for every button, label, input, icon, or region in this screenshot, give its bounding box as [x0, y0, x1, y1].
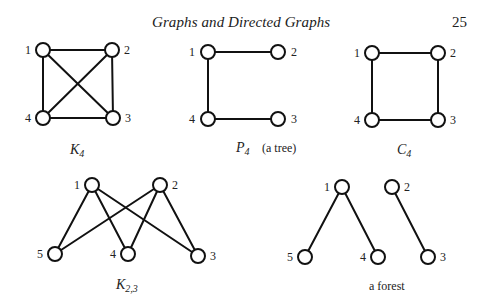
vertex-4: [201, 112, 215, 126]
caption-p4-note: (a tree): [262, 141, 296, 155]
caption-c4: C4: [397, 142, 411, 159]
caption-k23: K2,3: [115, 277, 138, 294]
vertex-label-5: 5: [37, 247, 43, 261]
vertex-1: [36, 43, 50, 57]
vertex-label-3: 3: [440, 250, 446, 264]
vertex-label-4: 4: [25, 111, 31, 125]
graph-k23: 1 2 3 4 5 K2,3: [37, 178, 216, 294]
edge-2-3: [392, 187, 428, 257]
vertex-label-1: 1: [354, 46, 360, 60]
vertex-4: [121, 247, 135, 261]
book-page: Graphs and Directed Graphs 25 1 2 3 4 K4: [0, 0, 488, 308]
edge-1-4: [342, 187, 378, 257]
caption-forest: a forest: [369, 279, 405, 293]
vertex-1: [85, 178, 99, 192]
vertex-3: [271, 112, 285, 126]
graph-figures: 1 2 3 4 K4 1 2 3 4 P4 (a tree): [0, 0, 488, 308]
vertex-label-3: 3: [291, 112, 297, 126]
caption-k4: K4: [69, 142, 84, 159]
vertex-label-2: 2: [172, 178, 178, 192]
vertex-label-3: 3: [210, 249, 216, 263]
vertex-4: [365, 113, 379, 127]
vertex-4: [36, 111, 50, 125]
vertex-label-4: 4: [354, 113, 360, 127]
edge-1-4: [92, 185, 128, 254]
vertex-label-3: 3: [125, 111, 131, 125]
vertex-2: [431, 46, 445, 60]
vertex-1: [201, 45, 215, 59]
vertex-label-4: 4: [360, 250, 366, 264]
vertex-5: [48, 247, 62, 261]
vertex-1: [335, 180, 349, 194]
graph-p4: 1 2 3 4 P4 (a tree): [189, 45, 297, 157]
vertex-5: [298, 250, 312, 264]
vertex-3: [421, 250, 435, 264]
vertex-label-1: 1: [324, 180, 330, 194]
graph-forest: 1 2 3 4 5 a forest: [287, 180, 446, 293]
vertex-3: [191, 249, 205, 263]
vertex-label-1: 1: [189, 45, 195, 59]
vertex-4: [371, 250, 385, 264]
vertex-label-4: 4: [110, 247, 116, 261]
vertex-label-4: 4: [189, 112, 195, 126]
vertex-label-1: 1: [74, 178, 80, 192]
graph-k4: 1 2 3 4 K4: [25, 43, 131, 159]
vertex-3: [106, 111, 120, 125]
vertex-label-5: 5: [287, 250, 293, 264]
edge-1-5: [55, 185, 92, 254]
vertex-label-2: 2: [404, 180, 410, 194]
edge-2-3: [112, 50, 113, 118]
edge-2-3: [160, 185, 198, 256]
edge-1-5: [305, 187, 342, 257]
vertex-1: [365, 46, 379, 60]
vertex-2: [105, 43, 119, 57]
vertex-label-3: 3: [450, 113, 456, 127]
vertex-2: [153, 178, 167, 192]
graph-c4: 1 2 3 4 C4: [354, 46, 456, 159]
vertex-2: [271, 45, 285, 59]
caption-p4: P4: [235, 140, 250, 157]
vertex-label-2: 2: [291, 45, 297, 59]
vertex-label-1: 1: [25, 43, 31, 57]
vertex-label-2: 2: [124, 43, 130, 57]
vertex-3: [431, 113, 445, 127]
vertex-2: [385, 180, 399, 194]
vertex-label-2: 2: [450, 46, 456, 60]
